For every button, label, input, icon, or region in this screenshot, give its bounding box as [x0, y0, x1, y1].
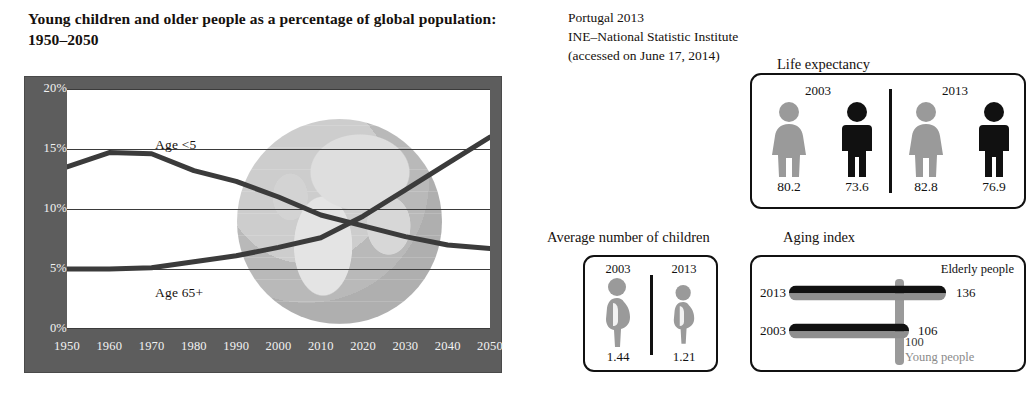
- aging-index-row-label-2013: 2013: [760, 285, 786, 301]
- pregnant-figure-2003: [598, 277, 638, 351]
- x-tick-1970: 1970: [139, 339, 165, 354]
- y-tick-10: 10%: [27, 201, 67, 216]
- y-tick-20: 20%: [27, 81, 67, 96]
- line-chart: Age <5 Age 65+ 0%5%10%15%20% 19501960197…: [24, 76, 502, 373]
- reference-value-100: 100: [905, 335, 924, 350]
- aging-index-card: Elderly people 2013 136 2003 106 100 You…: [750, 255, 1026, 372]
- male-figure-2003: [834, 101, 880, 183]
- children-card: 2003 2013 1.44 1.21: [583, 255, 718, 372]
- chart-series-lines: [67, 89, 490, 329]
- life-expectancy-male-2003: 73.6: [845, 179, 869, 195]
- aging-index-row-label-2003: 2003: [760, 323, 786, 339]
- x-axis: 1950196019701980199020002010202020302040…: [67, 335, 490, 365]
- aging-index-bar-2013: [789, 286, 946, 301]
- x-tick-2030: 2030: [392, 339, 418, 354]
- life-expectancy-female-2003: 80.2: [777, 179, 801, 195]
- series-line-age-65-plus: [67, 137, 490, 269]
- life-expectancy-divider: [889, 89, 892, 193]
- chart-plot-area: Age <5 Age 65+: [67, 89, 490, 329]
- y-tick-0: 0%: [27, 321, 67, 336]
- life-expectancy-card: 2003 2013 80.2 73.: [750, 73, 1026, 209]
- children-heading: Average number of children: [547, 229, 710, 246]
- series-line-age-under-5: [67, 153, 490, 249]
- y-tick-5: 5%: [27, 261, 67, 276]
- x-tick-2050: 2050: [477, 339, 503, 354]
- x-tick-2010: 2010: [308, 339, 334, 354]
- young-people-label: Young people: [905, 350, 974, 365]
- series-label-age-65-plus: Age 65+: [155, 285, 203, 301]
- source-note: Portugal 2013 INE–National Statistic Ins…: [568, 8, 738, 65]
- life-expectancy-heading: Life expectancy: [777, 56, 870, 73]
- male-figure-2013: [971, 101, 1017, 183]
- children-year-2003: 2003: [606, 262, 631, 277]
- aging-index-bar-2003: [789, 324, 909, 339]
- aging-index-heading: Aging index: [783, 229, 855, 246]
- children-year-2013: 2013: [672, 262, 697, 277]
- global-population-chart-panel: Young children and older people as a per…: [0, 0, 525, 398]
- life-expectancy-male-2013: 76.9: [982, 179, 1006, 195]
- pregnant-figure-2013: [667, 284, 701, 348]
- children-value-2003: 1.44: [607, 349, 630, 365]
- x-tick-2000: 2000: [266, 339, 292, 354]
- portugal-infographic-panel: Portugal 2013 INE–National Statistic Ins…: [525, 0, 1032, 398]
- children-value-2013: 1.21: [673, 349, 696, 365]
- x-tick-1950: 1950: [54, 339, 80, 354]
- x-tick-2040: 2040: [435, 339, 461, 354]
- female-figure-2013: [903, 101, 949, 183]
- female-figure-2003: [766, 101, 812, 183]
- children-divider: [650, 275, 653, 355]
- life-expectancy-year-2003: 2003: [805, 83, 831, 99]
- x-tick-1960: 1960: [96, 339, 122, 354]
- page-title: Young children and older people as a per…: [28, 8, 498, 50]
- aging-index-value-2013: 136: [956, 285, 976, 301]
- life-expectancy-year-2013: 2013: [942, 83, 968, 99]
- x-tick-2020: 2020: [350, 339, 376, 354]
- life-expectancy-female-2013: 82.8: [914, 179, 938, 195]
- series-label-age-under-5: Age <5: [155, 137, 196, 153]
- elderly-people-label: Elderly people: [941, 262, 1014, 277]
- x-tick-1990: 1990: [223, 339, 249, 354]
- x-tick-1980: 1980: [181, 339, 207, 354]
- y-tick-15: 15%: [27, 141, 67, 156]
